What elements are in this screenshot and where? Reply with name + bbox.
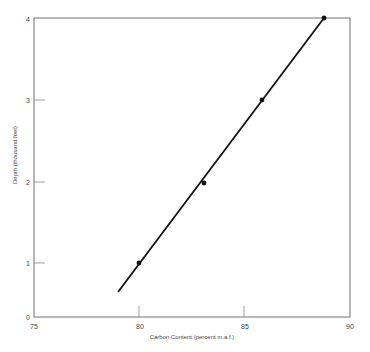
y-axis (34, 100, 45, 263)
data-point (260, 98, 265, 103)
chart: 0 1 2 3 4 75 80 85 90 Carbon Content (pe… (0, 0, 370, 352)
x-tick-75: 75 (30, 323, 38, 330)
x-tick-85: 85 (241, 323, 249, 330)
x-axis-label: Carbon Content (percent m.a.f.) (150, 334, 235, 340)
plot-frame (34, 18, 350, 317)
y-tick-4: 4 (26, 16, 30, 23)
y-axis-label: Depth (thousand feet) (12, 126, 18, 184)
y-tick-1: 1 (26, 260, 30, 267)
x-tick-80: 80 (136, 323, 144, 330)
x-tick-90: 90 (346, 323, 354, 330)
fit-line (118, 18, 324, 292)
y-tick-0: 0 (26, 314, 30, 321)
data-point (137, 261, 142, 266)
data-point (202, 181, 207, 186)
data-point (322, 16, 327, 21)
y-tick-3: 3 (26, 97, 30, 104)
y-tick-2: 2 (26, 179, 30, 186)
x-axis (139, 306, 244, 317)
